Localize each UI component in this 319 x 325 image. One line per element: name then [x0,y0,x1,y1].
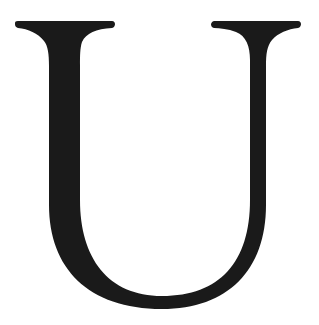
letter-u-glyph: U [0,0,319,325]
letter-u-icon [0,0,319,325]
